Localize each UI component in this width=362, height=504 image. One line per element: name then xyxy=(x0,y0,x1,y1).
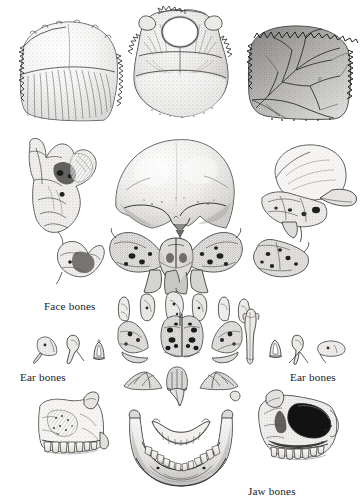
figure-face-bone-nasal-right xyxy=(218,297,229,321)
figure-occipital-bone xyxy=(128,6,232,118)
label-jaw-bones: Jaw bones xyxy=(248,485,296,498)
label-ear-bones-right: Ear bones xyxy=(290,371,336,384)
label-face-bones: Face bones xyxy=(44,300,96,313)
figure-parietal-bone xyxy=(247,26,358,121)
label-ear-bones-left: Ear bones xyxy=(20,371,66,384)
figure-ethmoid-labyrinth xyxy=(161,312,203,357)
figure-face-bone-nasal-left xyxy=(118,297,129,321)
figure-maxilla-left xyxy=(39,392,109,454)
figure-frontal-bone xyxy=(19,20,123,121)
figure-small-fragment-center xyxy=(230,391,240,401)
skull-bones-illustration xyxy=(0,0,362,504)
figure-vomer-base xyxy=(167,367,188,392)
anatomical-plate: Face bones Ear bones Ear bones Jaw bones xyxy=(0,0,362,504)
figure-face-bone-lacrimal xyxy=(140,294,154,321)
